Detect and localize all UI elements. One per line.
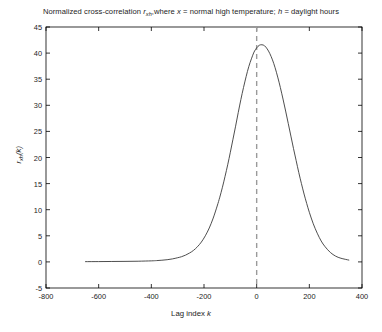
y-tick-label: 45 bbox=[8, 23, 42, 32]
axes-frame bbox=[46, 27, 362, 288]
x-tick-label: -600 bbox=[91, 292, 106, 301]
x-tick-label: -400 bbox=[144, 292, 159, 301]
x-tick-label: 400 bbox=[356, 292, 368, 301]
x-tick-label: 0 bbox=[255, 292, 259, 301]
plot-area bbox=[0, 0, 382, 332]
y-axis-label: rxh(k) bbox=[14, 120, 24, 190]
y-tick-label: 35 bbox=[8, 75, 42, 84]
y-axis-label-arg: (k) bbox=[14, 146, 23, 155]
y-tick-label: 10 bbox=[8, 205, 42, 214]
y-tick-label: 5 bbox=[8, 231, 42, 240]
chart-figure: Normalized cross-correlation rxh,where x… bbox=[0, 0, 382, 332]
y-tick-label: -5 bbox=[8, 284, 42, 293]
y-tick-label: 20 bbox=[8, 153, 42, 162]
y-axis-label-symbol: r bbox=[14, 161, 23, 164]
y-axis-label-subscript: xh bbox=[18, 155, 24, 161]
y-tick-label: 15 bbox=[8, 179, 42, 188]
y-tick-label: 30 bbox=[8, 101, 42, 110]
y-tick-label: 40 bbox=[8, 49, 42, 58]
x-tick-label: 200 bbox=[303, 292, 315, 301]
y-tick-label: 0 bbox=[8, 257, 42, 266]
y-tick-label: 25 bbox=[8, 127, 42, 136]
x-tick-label: -800 bbox=[39, 292, 54, 301]
plot-border bbox=[46, 27, 362, 288]
x-tick-label: -200 bbox=[197, 292, 212, 301]
x-axis-label: Lag index k bbox=[0, 309, 382, 318]
x-axis-label-text: Lag index bbox=[171, 309, 207, 318]
x-axis-label-var: k bbox=[207, 309, 211, 318]
